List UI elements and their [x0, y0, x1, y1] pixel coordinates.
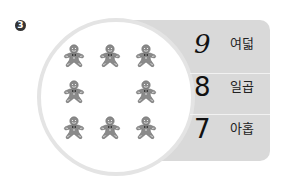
counting-circle: [37, 18, 195, 176]
gingerbread-man-icon: [63, 80, 85, 104]
choice-number: 9: [194, 27, 211, 61]
problem-card: 3: [0, 0, 281, 178]
choice-number: 8: [194, 70, 211, 104]
gingerbread-man-icon: [63, 44, 85, 68]
choice-number: 7: [194, 112, 211, 146]
gingerbread-man-icon: [135, 116, 157, 140]
choice-word: 아홉: [230, 120, 254, 138]
choice-word: 여덟: [230, 35, 254, 53]
choice-row-1[interactable]: 9 여덟: [188, 25, 270, 65]
question-number-badge: 3: [15, 20, 26, 31]
choice-row-3[interactable]: 7 아홉: [188, 110, 270, 150]
gingerbread-man-icon: [63, 116, 85, 140]
choice-row-2[interactable]: 8 일곱: [188, 68, 270, 108]
gingerbread-man-icon: [99, 44, 121, 68]
gingerbread-man-icon: [99, 116, 121, 140]
choice-word: 일곱: [230, 78, 254, 96]
gingerbread-man-icon: [135, 80, 157, 104]
gingerbread-man-icon: [135, 44, 157, 68]
